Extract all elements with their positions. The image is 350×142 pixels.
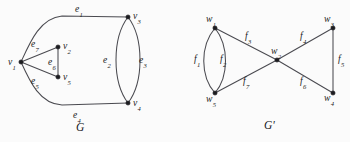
edge-label-f5: f5 <box>338 54 344 64</box>
vertex-v3 <box>126 15 130 19</box>
graph-G-edges <box>21 16 140 105</box>
edge-label-f1: f1 <box>194 54 200 64</box>
vertex-v2 <box>56 45 60 49</box>
graph-G-vertices <box>19 15 130 105</box>
edge-label-e7: e7 <box>31 39 39 49</box>
edge-label-f6: f6 <box>300 76 306 86</box>
vertex-label-w3: w3 <box>324 14 334 24</box>
edge-label-e6: e6 <box>48 57 56 67</box>
vertex-v5 <box>56 75 60 79</box>
edge-label-e5: e5 <box>31 76 39 86</box>
edge-label-f7: f7 <box>243 76 249 86</box>
vertex-label-w2: w2 <box>271 46 281 56</box>
vertex-label-v3: v3 <box>133 11 141 21</box>
vertex-label-v2: v2 <box>63 41 71 51</box>
edge-f1 <box>204 28 215 93</box>
vertex-v1 <box>19 60 23 64</box>
edge-label-e1: e1 <box>75 4 83 14</box>
edge-label-f4: f4 <box>300 31 306 41</box>
edge-label-e3: e3 <box>139 55 147 65</box>
edge-label-e2: e2 <box>103 55 111 65</box>
vertex-label-w4: w4 <box>324 93 334 103</box>
graph-figure: v1 v2 v3 v4 v5 e1 e2 e3 e4 e5 e6 e7 w1 w… <box>0 0 350 142</box>
edge-label-e4: e4 <box>73 110 81 120</box>
vertex-label-w5: w5 <box>206 94 216 104</box>
graph-caption-G-prime: G' <box>264 120 275 132</box>
edge-e2 <box>116 17 128 103</box>
graph-caption-G: G <box>76 122 84 134</box>
edge-label-f2: f2 <box>220 54 226 64</box>
vertex-label-v4: v4 <box>133 98 141 108</box>
edge-label-f3: f3 <box>245 31 251 41</box>
vertex-label-w1: w1 <box>206 14 216 24</box>
vertex-label-v5: v5 <box>63 72 71 82</box>
vertex-label-v1: v1 <box>8 57 16 67</box>
vertex-v4 <box>126 101 130 105</box>
graph-canvas <box>0 0 350 142</box>
